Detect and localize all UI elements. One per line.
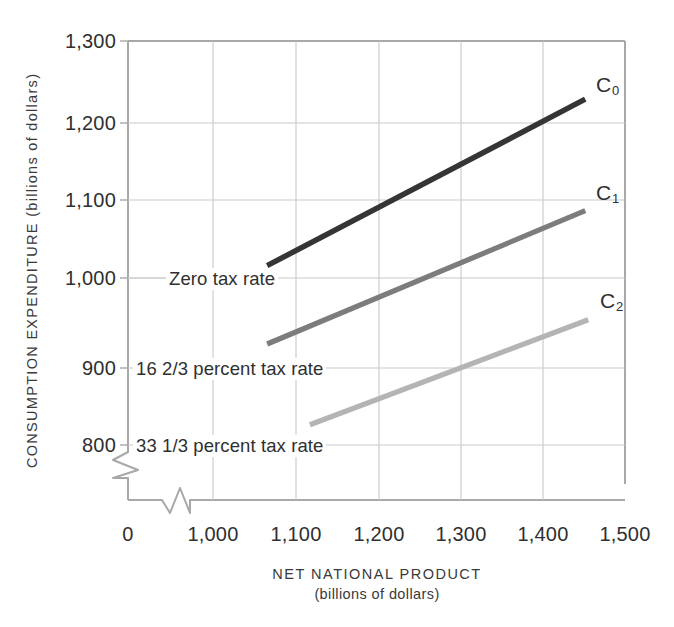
- annotation-zero-tax-rate: Zero tax rate: [166, 268, 278, 290]
- curve-label-c1-text: C: [596, 181, 611, 204]
- curve-label-c2: C2: [600, 289, 623, 313]
- y-tick-marks: [120, 41, 128, 445]
- x-axis-title: NET NATIONAL PRODUCT: [222, 566, 532, 582]
- annotation-16-2-3-percent-tax-rate: 16 2/3 percent tax rate: [133, 358, 326, 380]
- y-tick-label-1000: 1,000: [20, 267, 116, 290]
- curve-label-c0-subscript: 0: [612, 83, 619, 98]
- x-axis-subtitle: (billions of dollars): [222, 586, 532, 602]
- x-tick-label-1500: 1,500: [575, 523, 674, 546]
- curve-label-c0-text: C: [596, 73, 611, 96]
- series-c1-line: [267, 211, 585, 344]
- curve-label-c1: C1: [596, 181, 619, 205]
- y-tick-label-1200: 1,200: [20, 112, 116, 135]
- y-tick-label-900: 900: [20, 357, 116, 380]
- y-tick-label-1100: 1,100: [20, 189, 116, 212]
- series-c0-line: [267, 99, 585, 265]
- annotation-33-1-3-percent-tax-rate: 33 1/3 percent tax rate: [133, 435, 326, 457]
- series-c2-line: [310, 320, 588, 425]
- figure-container: CONSUMPTION EXPENDITURE (billions of dol…: [0, 0, 674, 627]
- curve-label-c2-subscript: 2: [616, 299, 623, 314]
- x-tick-label-0: 0: [98, 523, 158, 546]
- y-tick-label-800: 800: [20, 434, 116, 457]
- curve-label-c2-text: C: [600, 289, 615, 312]
- curve-label-c1-subscript: 1: [612, 191, 619, 206]
- curve-label-c0: C0: [596, 73, 619, 97]
- x-axis-break-icon: [162, 488, 190, 513]
- y-tick-label-1300: 1,300: [20, 30, 116, 53]
